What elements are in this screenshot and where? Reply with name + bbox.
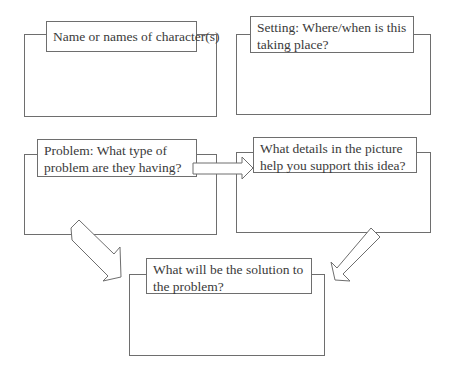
details-label: What details in the picture help you sup… bbox=[253, 137, 417, 173]
solution-label: What will be the solution to the problem… bbox=[146, 258, 312, 294]
characters-label: Name or names of character(s) bbox=[46, 21, 197, 52]
arrow-details-to-solution bbox=[331, 228, 380, 281]
problem-label: Problem: What type of problem are they h… bbox=[37, 139, 197, 177]
setting-label: Setting: Where/when is this taking place… bbox=[250, 16, 414, 53]
